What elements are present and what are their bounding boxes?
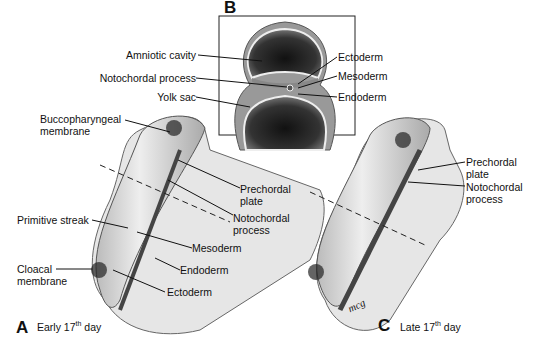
label-yolk-sac: Yolk sac [157,91,196,103]
caption-c-text: Late 17 [400,321,435,333]
label-cloacal-membrane: Cloacalmembrane [17,263,67,287]
label-prechordal-plate-a: Prechordalplate [240,183,291,207]
label-prechordal-c-line1: Prechordal [466,156,517,168]
label-prechordal-a-line2: plate [240,195,291,207]
label-amniotic-cavity: Amniotic cavity [126,49,196,61]
label-primitive-streak: Primitive streak [17,214,89,226]
caption-a: Early 17th day [37,320,101,333]
label-notochordal-process-a: Notochordalprocess [233,212,290,236]
label-notochordal-a-line2: process [233,224,290,236]
label-buccopharyngeal-membrane: Buccopharyngealmembrane [40,113,121,137]
label-endoderm-a: Endoderm [180,264,228,276]
panel-label-b: B [224,0,236,18]
diagram-artwork [0,0,534,347]
label-cloacal-line2: membrane [17,275,67,287]
label-notochordal-c-line2: process [466,193,523,205]
label-notochordal-a-line1: Notochordal [233,212,290,224]
caption-c: Late 17th day [400,320,461,333]
panel-label-c: C [378,316,390,336]
caption-a-text: Early 17 [37,321,76,333]
label-prechordal-a-line1: Prechordal [240,183,291,195]
label-notochordal-c-line1: Notochordal [466,181,523,193]
label-prechordal-c-line2: plate [466,168,517,180]
label-cloacal-line1: Cloacal [17,263,67,275]
label-notochordal-process-b: Notochordal process [100,72,196,84]
label-ectoderm-b: Ectoderm [338,51,383,63]
label-buccopharyngeal-line1: Buccopharyngeal [40,113,121,125]
caption-c-suffix: day [441,321,461,333]
panel-label-a: A [16,318,28,338]
embryo-diagram: B A Early 17th day C Late 17th day mcg A… [0,0,534,347]
label-buccopharyngeal-line2: membrane [40,125,121,137]
caption-a-suffix: day [81,321,101,333]
label-mesoderm-a: Mesoderm [192,242,242,254]
label-notochordal-process-c: Notochordalprocess [466,181,523,205]
label-endoderm-b: Endoderm [338,91,386,103]
label-mesoderm-b: Mesoderm [338,70,388,82]
label-prechordal-plate-c: Prechordalplate [466,156,517,180]
label-ectoderm-a: Ectoderm [167,286,212,298]
